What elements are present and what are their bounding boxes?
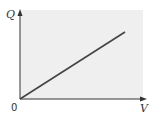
origin-label: 0 (11, 103, 17, 113)
q-v-chart (0, 0, 152, 116)
y-axis-label: Q (6, 9, 15, 20)
x-axis-arrow-icon (140, 97, 147, 102)
plot-area (20, 10, 143, 99)
x-axis-label: V (140, 103, 148, 114)
